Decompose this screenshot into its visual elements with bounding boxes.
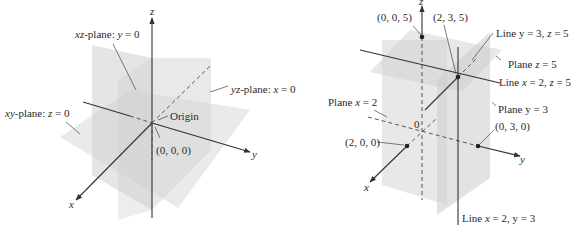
figure-canvas: z y x xz-plane: y = 0 yz-plane: x = 0 xy…: [0, 0, 580, 234]
line-x2-z5-label: Line x = 2, z = 5: [499, 76, 572, 88]
point-0-0-5: [420, 35, 425, 40]
point-2-3-5: [456, 75, 461, 80]
y-axis-label-right: y: [519, 153, 525, 165]
right-panel: z y x (0, 0, 5) (2, 3, 5) (2, 0, 0) (0, …: [328, 0, 572, 225]
plane-z5-label: Plane z = 5: [508, 58, 557, 70]
z-axis-label: z: [149, 5, 155, 17]
point-0-3-0: [476, 144, 481, 149]
x-axis-label-right: x: [363, 181, 369, 193]
y-axis-label: y: [251, 148, 257, 160]
point-2-0-0: [405, 144, 410, 149]
point-label-0-0-5: (0, 0, 5): [377, 11, 412, 24]
x-axis-label: x: [68, 198, 74, 210]
z-axis-label-right: z: [418, 0, 424, 7]
point-label-0-3-0: (0, 3, 0): [495, 120, 530, 133]
yz-plane-label: yz-plane: x = 0: [230, 83, 296, 95]
point-label-2-0-0: (2, 0, 0): [345, 136, 380, 149]
point-label-2-3-5: (2, 3, 5): [433, 11, 468, 24]
plane-x2-label: Plane x = 2: [328, 96, 377, 108]
origin-label: Origin: [170, 110, 199, 122]
xy-plane-label: xy-plane: z = 0: [4, 107, 70, 119]
plane-y3-label: Plane y = 3: [498, 103, 548, 115]
xz-plane-label: xz-plane: y = 0: [74, 28, 140, 40]
left-panel: z y x xz-plane: y = 0 yz-plane: x = 0 xy…: [4, 5, 296, 220]
origin-label-right: 0: [414, 118, 420, 130]
line-x2-y3-label: Line x = 2, y = 3: [462, 212, 536, 224]
line-y3-z5-label: Line y = 3, z = 5: [496, 27, 569, 39]
origin-coords-label: (0, 0, 0): [156, 144, 191, 157]
